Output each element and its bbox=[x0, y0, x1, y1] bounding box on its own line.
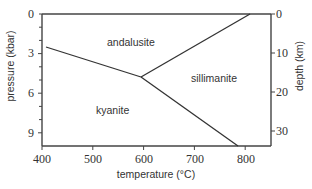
region-label-andalusite: andalusite bbox=[107, 36, 155, 48]
andalusite-kyanite-boundary bbox=[46, 47, 141, 77]
y2-tick-label: 0 bbox=[276, 7, 282, 21]
region-label-sillimanite: sillimanite bbox=[191, 72, 237, 84]
x-tick-label: 600 bbox=[135, 152, 153, 166]
y-tick-label: 6 bbox=[28, 86, 34, 100]
y-tick-label: 9 bbox=[28, 126, 34, 140]
y2-tick-label: 30 bbox=[276, 124, 288, 138]
y-axis-title: pressure (kbar) bbox=[4, 30, 16, 101]
y-tick-label: 3 bbox=[28, 46, 34, 60]
x-tick-label: 800 bbox=[237, 152, 255, 166]
x-tick-label: 500 bbox=[84, 152, 102, 166]
y-axis-tick-labels: 0 3 6 9 bbox=[28, 7, 34, 140]
andalusite-sillimanite-boundary bbox=[141, 14, 250, 77]
y2-axis-tick-labels: 0 10 20 30 bbox=[276, 7, 288, 138]
y-tick-label: 0 bbox=[28, 7, 34, 21]
region-label-kyanite: kyanite bbox=[96, 104, 129, 116]
x-axis-tick-labels: 400 500 600 700 800 bbox=[33, 152, 255, 166]
y2-axis-title: depth (km) bbox=[293, 41, 305, 91]
y2-tick-label: 20 bbox=[276, 85, 288, 99]
x-tick-label: 700 bbox=[186, 152, 204, 166]
kyanite-sillimanite-boundary bbox=[141, 77, 238, 146]
x-axis-title: temperature (°C) bbox=[117, 168, 195, 180]
y2-tick-label: 10 bbox=[276, 46, 288, 60]
phase-diagram-chart: andalusite sillimanite kyanite 0 3 6 9 4… bbox=[0, 0, 312, 189]
x-tick-label: 400 bbox=[33, 152, 51, 166]
